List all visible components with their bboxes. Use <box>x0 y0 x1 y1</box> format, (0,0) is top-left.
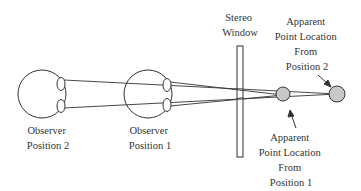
eye-icon <box>57 78 65 91</box>
eye-icon <box>163 99 171 112</box>
point-1-label: Apparent Point Location From Position 1 <box>259 132 324 188</box>
sight-lines-position-1 <box>170 82 283 106</box>
observer-2-label: Observer Position 2 <box>27 125 69 151</box>
sight-lines-position-2 <box>64 80 337 108</box>
observer-head-position-1 <box>124 70 172 118</box>
eye-icon <box>163 79 171 92</box>
arrow-to-point-2 <box>318 75 331 87</box>
apparent-point-position-1 <box>276 87 290 101</box>
stereo-parallax-diagram: Observer Position 2 Observer Position 1 … <box>0 0 361 191</box>
arrow-to-point-1 <box>288 110 296 128</box>
stereo-window-label: Stereo Window <box>222 12 258 38</box>
observer-head-position-2 <box>18 70 66 118</box>
point-2-label: Apparent Point Location From Position 2 <box>275 16 340 72</box>
eye-icon <box>57 100 65 113</box>
apparent-point-position-2 <box>329 86 345 102</box>
stereo-window <box>237 46 243 157</box>
observer-1-label: Observer Position 1 <box>129 125 171 151</box>
